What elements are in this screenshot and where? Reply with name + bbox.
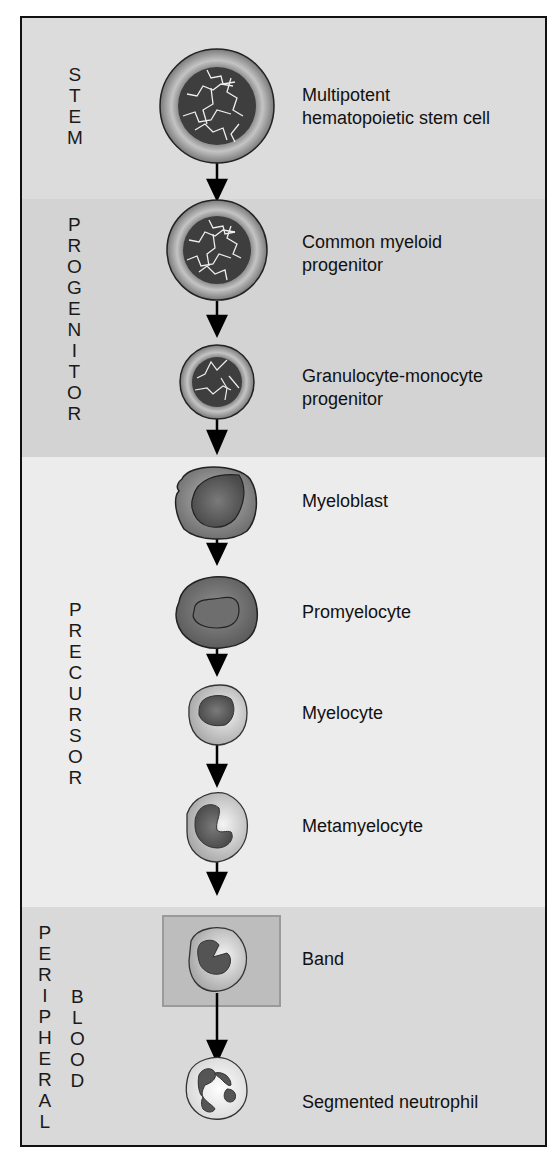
diagram-frame: S T E M P R O G E N I T O R P R E C U R … [20, 16, 547, 1147]
label-line: Granulocyte-monocyte [302, 365, 483, 388]
label-line: Metamyelocyte [302, 815, 423, 838]
cell-hsc [160, 49, 274, 163]
cell-band [189, 928, 247, 991]
cell-myeloblast [176, 467, 257, 539]
label-cmp: Common myeloid progenitor [302, 231, 442, 277]
label-line: Common myeloid [302, 231, 442, 254]
label-segmented-neutrophil: Segmented neutrophil [302, 1091, 478, 1114]
cell-metamyelocyte [187, 793, 247, 862]
label-band: Band [302, 948, 344, 971]
cell-myelocyte [189, 685, 247, 745]
label-line: Myelocyte [302, 702, 383, 725]
label-line: progenitor [302, 254, 442, 277]
cell-lineage-artwork [22, 18, 547, 1147]
label-line: Multipotent [302, 84, 490, 107]
label-line: Band [302, 948, 344, 971]
label-gmp: Granulocyte-monocyte progenitor [302, 365, 483, 411]
label-line: hematopoietic stem cell [302, 107, 490, 130]
cell-cmp [167, 200, 267, 300]
label-line: Myeloblast [302, 490, 388, 513]
label-line: progenitor [302, 388, 483, 411]
cell-promyelocyte [176, 577, 257, 648]
label-line: Segmented neutrophil [302, 1091, 478, 1114]
label-myeloblast: Myeloblast [302, 490, 388, 513]
label-myelocyte: Myelocyte [302, 702, 383, 725]
cell-segmented-neutrophil [186, 1058, 247, 1120]
label-line: Promyelocyte [302, 601, 411, 624]
label-promyelocyte: Promyelocyte [302, 601, 411, 624]
label-hsc: Multipotent hematopoietic stem cell [302, 84, 490, 130]
cell-gmp [180, 345, 254, 419]
label-metamyelocyte: Metamyelocyte [302, 815, 423, 838]
